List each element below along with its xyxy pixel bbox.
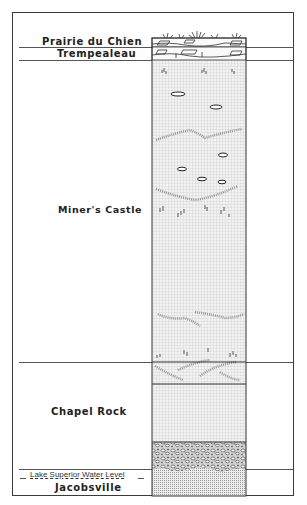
- stratigraphic-column: [0, 0, 307, 505]
- jacobsville-unit: [152, 468, 246, 496]
- conglomerate-unit: [152, 442, 246, 472]
- prairie-du-chien-unit: [152, 38, 246, 47]
- chapel-rock-unit: [152, 362, 246, 442]
